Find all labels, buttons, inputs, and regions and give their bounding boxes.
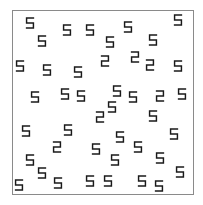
glyph-5 — [134, 141, 143, 153]
glyph-5 — [138, 175, 147, 187]
glyph-2 — [146, 59, 155, 71]
glyph-5 — [43, 64, 52, 76]
glyph-5 — [116, 131, 125, 143]
glyph-5 — [176, 166, 185, 178]
glyph-5 — [174, 60, 183, 72]
glyph-2 — [131, 51, 140, 63]
glyph-5 — [15, 179, 24, 191]
glyph-5 — [38, 167, 47, 179]
glyph-5 — [54, 177, 63, 189]
glyph-5 — [170, 128, 179, 140]
glyph-5 — [178, 88, 187, 100]
glyph-5 — [86, 24, 95, 36]
glyph-5 — [124, 21, 133, 33]
glyph-5 — [104, 175, 113, 187]
glyph-5 — [16, 60, 25, 72]
glyph-2 — [96, 111, 105, 123]
glyph-5 — [22, 125, 31, 137]
glyph-2 — [53, 141, 62, 153]
glyph-5 — [149, 34, 158, 46]
glyph-5 — [74, 66, 83, 78]
glyph-2 — [101, 55, 110, 67]
glyph-5 — [174, 14, 183, 26]
glyph-5 — [111, 154, 120, 166]
glyph-5 — [156, 152, 165, 164]
glyph-5 — [77, 90, 86, 102]
glyph-5 — [64, 124, 73, 136]
glyph-5 — [31, 91, 40, 103]
glyph-5 — [149, 110, 158, 122]
glyph-5 — [86, 175, 95, 187]
glyph-5 — [129, 91, 138, 103]
glyph-2 — [156, 90, 165, 102]
glyph-5 — [26, 17, 35, 29]
glyph-5 — [92, 143, 101, 155]
glyph-5 — [38, 35, 47, 47]
glyph-5 — [108, 101, 117, 113]
glyph-5 — [61, 88, 70, 100]
glyph-5 — [155, 180, 164, 192]
glyph-5 — [113, 85, 122, 97]
glyph-5 — [26, 154, 35, 166]
glyph-5 — [63, 24, 72, 36]
glyph-5 — [106, 36, 115, 48]
